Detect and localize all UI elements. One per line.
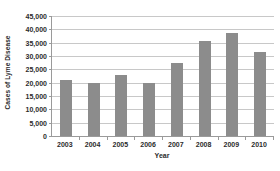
- plot-area: [51, 16, 274, 137]
- x-axis-tick-mark: [190, 137, 191, 140]
- bar: [171, 63, 183, 136]
- x-axis-tick-label: 2006: [140, 141, 156, 148]
- x-axis-tick-mark: [218, 137, 219, 140]
- x-axis-tick-mark: [134, 137, 135, 140]
- x-axis-tick-mark: [162, 137, 163, 140]
- y-axis-tick-label: 20,000: [26, 79, 47, 86]
- y-axis-tick-label: 5,000: [29, 119, 47, 126]
- x-axis-tick-label: 2005: [113, 141, 129, 148]
- x-axis-tick-label: 2009: [224, 141, 240, 148]
- x-axis-tick-mark: [79, 137, 80, 140]
- x-axis-tick-mark: [273, 137, 274, 140]
- x-axis-tick-mark: [245, 137, 246, 140]
- bar: [226, 33, 238, 136]
- y-axis-tick-label: 25,000: [26, 66, 47, 73]
- bar: [60, 80, 72, 136]
- x-axis-tick-label: 2004: [85, 141, 101, 148]
- bar: [115, 75, 127, 136]
- y-axis-title-label: Cases of Lyme Disease: [4, 35, 11, 109]
- bar-chart: Cases of Lyme Disease 05,00010,00015,000…: [0, 0, 280, 171]
- y-axis-tick-label: 40,000: [26, 26, 47, 33]
- y-axis-tick-labels: 05,00010,00015,00020,00025,00030,00035,0…: [14, 16, 50, 136]
- x-axis-tick-mark: [107, 137, 108, 140]
- bar-series: [52, 16, 274, 136]
- x-axis-tick-label: 2010: [251, 141, 267, 148]
- y-axis-tick-label: 15,000: [26, 93, 47, 100]
- x-axis-tick-label: 2007: [168, 141, 184, 148]
- y-axis-tick-label: 35,000: [26, 39, 47, 46]
- bar: [88, 83, 100, 136]
- y-axis-tick-label: 10,000: [26, 106, 47, 113]
- bar: [254, 52, 266, 136]
- y-axis-tick-label: 0: [43, 133, 47, 140]
- y-axis-title: Cases of Lyme Disease: [0, 0, 14, 145]
- x-axis-title: Year: [51, 152, 273, 159]
- y-axis-tick-label: 45,000: [26, 13, 47, 20]
- y-axis-tick-label: 30,000: [26, 53, 47, 60]
- bar: [143, 83, 155, 136]
- x-axis-tick-label: 2008: [196, 141, 212, 148]
- x-axis-tick-labels: 20032004200520062007200820092010: [51, 137, 273, 153]
- x-axis-tick-label: 2003: [57, 141, 73, 148]
- bar: [199, 41, 211, 136]
